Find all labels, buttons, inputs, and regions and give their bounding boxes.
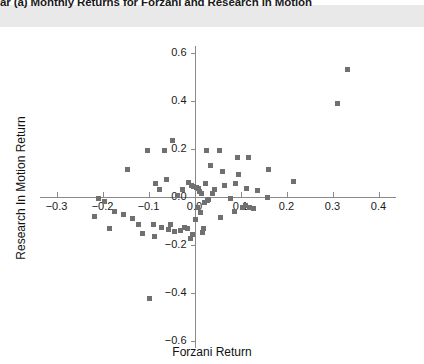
y-tick-mark <box>191 53 196 54</box>
data-point <box>186 180 191 185</box>
y-tick-label: −0.4 <box>131 286 187 298</box>
data-point <box>202 200 207 205</box>
data-point <box>92 214 97 219</box>
figure-root: ar (a) Monthly Returns for Forzani and R… <box>0 0 424 364</box>
x-tick-mark <box>333 192 334 197</box>
data-point <box>166 227 171 232</box>
x-tick-mark <box>287 192 288 197</box>
data-point <box>193 217 198 222</box>
data-point <box>240 205 245 210</box>
data-point <box>203 181 208 186</box>
data-point <box>200 230 205 235</box>
data-point <box>236 172 241 177</box>
data-point <box>178 228 183 233</box>
data-point <box>180 187 185 192</box>
y-tick-label: 0.4 <box>131 94 187 106</box>
y-axis-title: Research In Motion Return <box>14 98 28 278</box>
data-point <box>96 196 101 201</box>
x-tick-label: 0.3 <box>308 200 358 212</box>
x-tick-mark <box>241 192 242 197</box>
data-point <box>151 222 156 227</box>
data-point <box>140 231 145 236</box>
data-point <box>170 138 175 143</box>
data-point <box>112 209 117 214</box>
y-tick-mark <box>191 341 196 342</box>
x-tick-label: −0.3 <box>32 200 82 212</box>
data-point <box>172 229 177 234</box>
y-tick-mark <box>191 245 196 246</box>
data-point <box>157 187 162 192</box>
data-point <box>130 216 135 221</box>
x-tick-mark <box>57 192 58 197</box>
x-axis-title: Forzani Return <box>0 345 424 359</box>
data-point <box>232 209 237 214</box>
y-tick-label: 0.6 <box>131 46 187 58</box>
data-point <box>195 205 200 210</box>
x-tick-label: 0.4 <box>354 200 404 212</box>
y-tick-mark <box>191 293 196 294</box>
scatter-plot-canvas: −0.3−0.2−0.10.00.10.20.30.4 −0.6−0.4−0.2… <box>0 0 424 364</box>
data-point <box>162 148 167 153</box>
data-point <box>147 296 152 301</box>
data-point <box>159 225 164 230</box>
data-point <box>265 195 270 200</box>
y-tick-label: −0.6 <box>131 334 187 346</box>
data-point <box>218 215 223 220</box>
data-point <box>217 148 222 153</box>
data-point <box>255 188 260 193</box>
y-tick-label: 0.2 <box>131 142 187 154</box>
data-point <box>335 101 340 106</box>
y-tick-mark <box>191 149 196 150</box>
data-point <box>228 196 233 201</box>
y-tick-label: −0.2 <box>131 238 187 250</box>
data-point <box>220 169 225 174</box>
data-point <box>107 226 112 231</box>
data-point <box>210 191 215 196</box>
data-point <box>291 179 296 184</box>
x-tick-mark <box>379 192 380 197</box>
data-point <box>125 167 130 172</box>
data-point <box>244 186 249 191</box>
data-point <box>198 210 203 215</box>
data-point <box>345 67 350 72</box>
data-point <box>204 148 209 153</box>
data-point <box>246 155 251 160</box>
data-point <box>145 148 150 153</box>
x-tick-label: 0.2 <box>262 200 312 212</box>
data-point <box>175 193 180 198</box>
data-point <box>188 236 193 241</box>
data-point <box>164 177 169 182</box>
x-axis-line <box>40 197 396 198</box>
data-point <box>266 167 271 172</box>
y-tick-mark <box>191 197 196 198</box>
x-tick-mark <box>103 192 104 197</box>
data-point <box>233 181 238 186</box>
data-point <box>136 222 141 227</box>
data-point <box>235 155 240 160</box>
data-point <box>102 199 107 204</box>
data-point <box>121 212 126 217</box>
data-point <box>208 163 213 168</box>
data-point <box>153 181 158 186</box>
data-point <box>222 183 227 188</box>
data-point <box>152 234 157 239</box>
y-tick-mark <box>191 101 196 102</box>
